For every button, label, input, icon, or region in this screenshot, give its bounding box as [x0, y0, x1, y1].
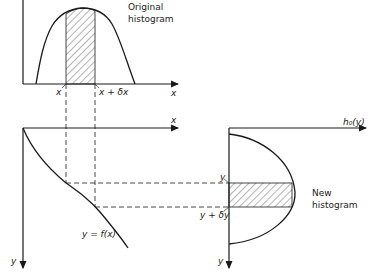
- x-tick-label: x: [55, 87, 62, 97]
- original-histogram-title-1: Original: [128, 2, 163, 12]
- curve-label: y = f(x): [81, 229, 116, 239]
- new-histogram-title-2: histogram: [312, 200, 358, 210]
- y-tick-label: y: [219, 172, 226, 182]
- original-histogram: [23, 0, 178, 84]
- new-histogram: [229, 128, 366, 268]
- new-y-axis-label: y: [217, 256, 224, 266]
- h0-axis-label: h₀(y): [343, 117, 365, 127]
- mapping-function-plot: [23, 128, 178, 268]
- histogram-transform-diagram: Original histogram x x + δx x x y y = f(…: [0, 0, 372, 272]
- mapping-x-axis-label: x: [170, 115, 177, 125]
- x-plus-dx-tick-label: x + δx: [98, 87, 129, 97]
- mapping-y-axis-label: y: [10, 256, 17, 266]
- top-x-axis-label: x: [170, 88, 177, 98]
- hatched-band-x: [66, 8, 95, 84]
- original-histogram-title-2: histogram: [128, 14, 174, 24]
- hatched-band-y: [229, 183, 292, 207]
- new-histogram-title-1: New: [312, 188, 332, 198]
- y-plus-dy-tick-label: y + δy: [199, 210, 230, 220]
